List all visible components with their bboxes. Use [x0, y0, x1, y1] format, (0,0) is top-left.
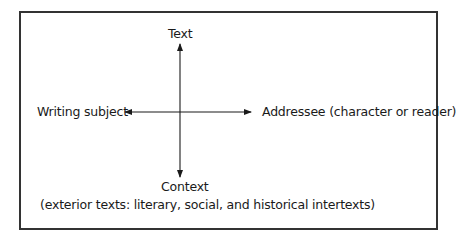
label-writing-subject: Writing subject: [37, 104, 128, 119]
label-context-detail: (exterior texts: literary, social, and h…: [40, 197, 375, 212]
label-context: Context: [161, 179, 209, 194]
label-addressee: Addressee (character or reader): [262, 104, 456, 119]
label-text: Text: [168, 26, 192, 41]
